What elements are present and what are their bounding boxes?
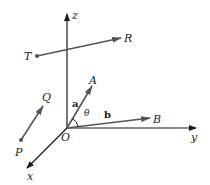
- vector-a: [67, 86, 92, 128]
- label-y: y: [190, 131, 198, 144]
- label-Q: Q: [42, 91, 51, 104]
- label-x: x: [27, 170, 34, 183]
- label-theta: θ: [84, 108, 90, 118]
- angle-arc: [73, 119, 78, 127]
- vector-diagram: z y x O T R P Q A B a b θ: [0, 0, 210, 185]
- label-R: R: [123, 32, 132, 45]
- label-A: A: [88, 74, 97, 87]
- vector-TR: [37, 38, 121, 56]
- label-vector-b: b: [104, 109, 111, 120]
- label-B: B: [152, 113, 161, 126]
- label-z: z: [71, 9, 78, 22]
- label-T: T: [24, 50, 33, 63]
- vector-PQ: [21, 106, 43, 140]
- label-P: P: [14, 146, 23, 159]
- label-vector-a: a: [72, 98, 79, 109]
- label-origin: O: [61, 131, 70, 144]
- diagram-svg: z y x O T R P Q A B a b θ: [0, 0, 210, 185]
